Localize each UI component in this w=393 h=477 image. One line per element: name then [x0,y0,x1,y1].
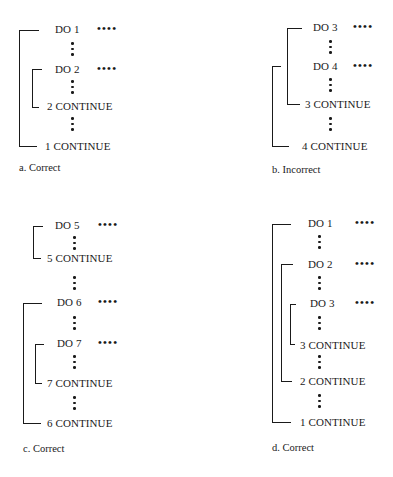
loop-2-bracket [281,264,282,382]
do-3-statement: DO 3 [310,297,335,309]
loop-3-bracket [290,304,291,345]
continue-1-statement: 1 CONTINUE [300,416,365,428]
panel-d-correct: DO 1 •••• DO 2 •••• DO 3 •••• 3 CONTINUE… [0,0,393,477]
continue-2-statement: 2 CONTINUE [300,375,365,387]
ellipsis: •••• [355,216,375,228]
loop-1-bracket [272,224,273,423]
vertical-dots [318,355,321,372]
ellipsis: •••• [355,257,375,269]
vertical-dots [318,276,321,293]
continue-3-statement: 3 CONTINUE [300,339,365,351]
panel-d-caption: d. Correct [272,442,314,454]
vertical-dots [318,394,321,411]
do-1-statement: DO 1 [308,217,333,229]
vertical-dots [318,235,321,252]
do-2-statement: DO 2 [308,258,333,270]
vertical-dots [318,316,321,333]
ellipsis: •••• [355,296,375,308]
